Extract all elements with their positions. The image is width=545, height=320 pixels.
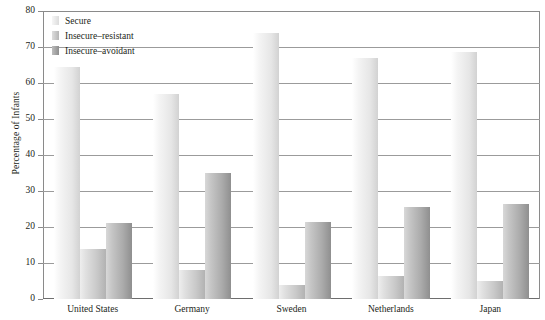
bar-group-germany xyxy=(153,11,231,299)
y-tick-label-10: 10 xyxy=(9,258,35,268)
legend-label-secure: Secure xyxy=(65,16,91,26)
bar-secure-sweden xyxy=(253,33,279,299)
bar-resistant-netherlands xyxy=(378,276,404,299)
x-tick-label-netherlands: Netherlands xyxy=(341,304,440,314)
y-tick-30 xyxy=(38,191,43,192)
bar-avoidant-japan xyxy=(503,204,529,299)
y-tick-20 xyxy=(38,227,43,228)
x-tick-label-germany: Germany xyxy=(142,304,241,314)
bar-avoidant-sweden xyxy=(305,222,331,299)
legend-item-insecure-avoidant: Insecure–avoidant xyxy=(52,43,135,58)
y-tick-60 xyxy=(38,83,43,84)
y-tick-label-80: 80 xyxy=(9,6,35,16)
bar-group-japan xyxy=(451,11,529,299)
y-tick-label-50: 50 xyxy=(9,114,35,124)
y-tick-label-0: 0 xyxy=(9,294,35,304)
legend-swatch-avoidant-icon xyxy=(52,46,59,55)
legend-label-insecure-resistant: Insecure–resistant xyxy=(65,31,134,41)
bar-resistant-germany xyxy=(179,270,205,299)
y-tick-50 xyxy=(38,119,43,120)
legend-swatch-secure-icon xyxy=(52,16,59,25)
y-tick-label-30: 30 xyxy=(9,186,35,196)
bar-secure-united-states xyxy=(54,67,80,299)
bar-secure-netherlands xyxy=(352,58,378,299)
bar-secure-germany xyxy=(153,94,179,299)
bar-secure-japan xyxy=(451,52,477,299)
bar-resistant-sweden xyxy=(279,285,305,299)
legend-label-insecure-avoidant: Insecure–avoidant xyxy=(65,46,135,56)
bar-resistant-japan xyxy=(477,281,503,299)
y-tick-label-40: 40 xyxy=(9,150,35,160)
bar-avoidant-united-states xyxy=(106,223,132,299)
legend-item-insecure-resistant: Insecure–resistant xyxy=(52,28,135,43)
bar-chart: Percentage of Infants 01020304050607080 … xyxy=(0,0,545,320)
bar-group-sweden xyxy=(253,11,331,299)
x-tick-label-united-states: United States xyxy=(43,304,142,314)
x-tick-label-sweden: Sweden xyxy=(242,304,341,314)
legend-item-secure: Secure xyxy=(52,13,135,28)
legend: Secure Insecure–resistant Insecure–avoid… xyxy=(52,13,135,58)
y-tick-label-70: 70 xyxy=(9,42,35,52)
bar-avoidant-germany xyxy=(205,173,231,299)
bar-resistant-united-states xyxy=(80,249,106,299)
y-tick-10 xyxy=(38,263,43,264)
y-tick-0 xyxy=(38,299,43,300)
x-tick-label-japan: Japan xyxy=(441,304,540,314)
legend-swatch-resistant-icon xyxy=(52,31,59,40)
y-tick-80 xyxy=(38,11,43,12)
y-tick-40 xyxy=(38,155,43,156)
bar-group-netherlands xyxy=(352,11,430,299)
y-tick-70 xyxy=(38,47,43,48)
y-tick-label-60: 60 xyxy=(9,78,35,88)
bar-avoidant-netherlands xyxy=(404,207,430,299)
y-tick-label-20: 20 xyxy=(9,222,35,232)
